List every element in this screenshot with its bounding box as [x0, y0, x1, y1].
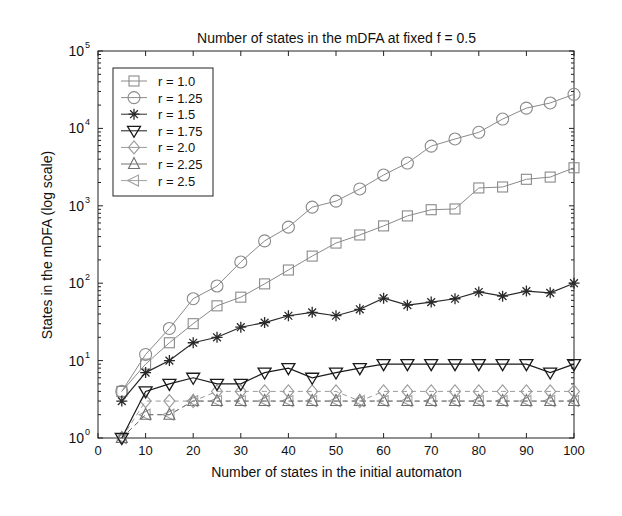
legend: r = 1.0r = 1.25r = 1.5r = 1.75r = 2.0r =… [113, 68, 213, 196]
star-marker-icon [164, 355, 175, 366]
y-tick-exponent: 1 [85, 350, 90, 360]
star-marker-icon [259, 317, 270, 328]
x-tick-label: 60 [376, 443, 390, 458]
legend-label: r = 1.25 [158, 91, 202, 106]
y-tick-label: 10 [68, 198, 84, 214]
star-marker-icon [235, 322, 246, 333]
x-tick-label: 20 [186, 443, 200, 458]
y-tick-label: 10 [68, 120, 84, 136]
x-tick-label: 90 [519, 443, 533, 458]
y-tick-label: 10 [68, 275, 84, 291]
triangle-down-marker-icon [472, 360, 485, 371]
y-tick-label: 10 [68, 353, 84, 369]
series-1-75 [115, 360, 580, 445]
legend-item: r = 1.75 [121, 124, 202, 139]
star-marker-icon [116, 396, 127, 407]
y-tick-label: 10 [68, 430, 84, 446]
series-2-5 [115, 396, 578, 444]
legend-label: r = 2.0 [158, 140, 195, 155]
series-line [122, 168, 574, 392]
star-marker-icon [188, 337, 199, 348]
star-marker-icon [402, 300, 413, 311]
star-marker-icon [283, 310, 294, 321]
star-marker-icon [473, 286, 484, 297]
series-1-5 [116, 278, 579, 407]
legend-label: r = 2.5 [158, 174, 195, 189]
y-tick-exponent: 3 [85, 195, 90, 205]
y-tick-exponent: 2 [85, 272, 90, 282]
legend-label: r = 2.25 [158, 157, 202, 172]
x-tick-label: 10 [138, 443, 152, 458]
x-tick-label: 50 [329, 443, 343, 458]
series-2-0 [116, 385, 579, 445]
x-tick-label: 70 [424, 443, 438, 458]
star-marker-icon [307, 307, 318, 318]
triangle-down-marker-icon [306, 373, 319, 384]
triangle-down-marker-icon [401, 360, 414, 371]
triangle-down-marker-icon [496, 360, 509, 371]
star-marker-icon [450, 293, 461, 304]
star-marker-icon [569, 278, 580, 289]
legend-label: r = 1.5 [158, 107, 195, 122]
x-tick-label: 40 [281, 443, 295, 458]
y-tick-label: 10 [68, 43, 84, 59]
triangle-down-marker-icon [425, 360, 438, 371]
x-tick-label: 100 [563, 443, 585, 458]
series-2-25 [116, 395, 579, 443]
star-marker-icon [426, 297, 437, 308]
line-chart: 0102030405060708090100100101102103104105… [0, 0, 622, 516]
x-tick-label: 80 [472, 443, 486, 458]
star-marker-icon [331, 310, 342, 321]
star-marker-icon [378, 293, 389, 304]
star-marker-icon [354, 304, 365, 315]
legend-label: r = 1.0 [158, 74, 195, 89]
x-tick-label: 0 [94, 443, 101, 458]
star-marker-icon [521, 286, 532, 297]
triangle-down-marker-icon [258, 368, 271, 379]
triangle-down-marker-icon [544, 368, 557, 379]
star-marker-icon [497, 291, 508, 302]
star-marker-icon [212, 332, 223, 343]
legend-label: r = 1.75 [158, 124, 202, 139]
x-tick-label: 30 [234, 443, 248, 458]
y-tick-exponent: 0 [85, 427, 90, 437]
star-legend-icon [129, 109, 140, 120]
y-tick-exponent: 4 [85, 117, 90, 127]
triangle-down-marker-icon [449, 360, 462, 371]
series-1-0 [117, 163, 579, 397]
y-tick-exponent: 5 [85, 40, 90, 50]
star-marker-icon [545, 287, 556, 298]
star-marker-icon [140, 367, 151, 378]
